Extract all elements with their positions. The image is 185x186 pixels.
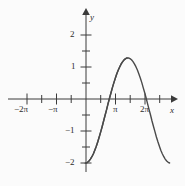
y-tick-label-minus-2: −2 (65, 158, 75, 167)
x-axis-arrow-icon (171, 95, 178, 103)
x-tick-label-minus-2pi: −2π (14, 105, 28, 114)
x-axis-label: x (170, 105, 174, 115)
y-tick-label-1: 1 (71, 62, 76, 71)
y-tick-label-2: 2 (70, 30, 75, 39)
coordinate-plot (0, 0, 185, 186)
y-axis-label: y (90, 12, 94, 22)
cosine-curve-segment-2 (86, 58, 127, 163)
graph-figure: 2 1 −1 −2 −2π −π π 2π y x (0, 0, 185, 186)
x-tick-label-pi: π (113, 105, 118, 114)
x-tick-label-2pi: 2π (140, 105, 149, 114)
y-tick-label-minus-1: −1 (65, 126, 75, 135)
y-axis-arrow-icon (82, 8, 90, 15)
x-tick-label-minus-pi: −π (48, 105, 58, 114)
cosine-curve (85, 58, 169, 163)
